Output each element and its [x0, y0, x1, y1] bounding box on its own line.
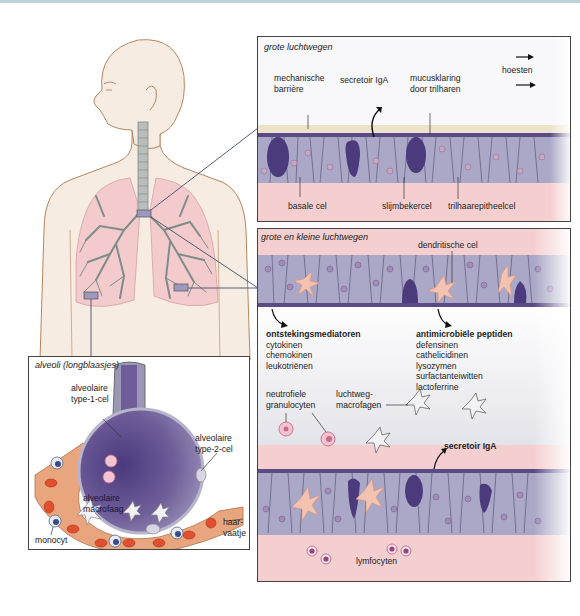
panel-title: alveoli (longblaasjes): [35, 360, 119, 370]
label-secretory-iga: secretoir IgA: [340, 75, 388, 86]
label-type1-cell: alveolaire type-1-cel: [71, 383, 109, 404]
human-torso-figure: [0, 30, 260, 360]
panel-title: grote luchtwegen: [264, 42, 333, 52]
label-monocyte: monocyt: [35, 535, 67, 546]
label-cough: hoesten: [502, 65, 533, 76]
label-lymphocytes: lymfocyten: [356, 556, 397, 567]
marker-alveoli: [84, 292, 98, 299]
top-border-line: [0, 0, 580, 3]
label-mucus-clearance: mucusklaring door trilharen: [410, 73, 461, 94]
panel-large-airways: grote luchtwegen mechanische barrière se…: [257, 36, 571, 222]
label-secretory-iga: secretoir IgA: [444, 441, 497, 452]
panel-all-airways: grote en kleine luchtwegen dendritische …: [257, 228, 571, 582]
label-dendritic-cell: dendritische cel: [418, 240, 478, 251]
marker-small-airway: [174, 284, 188, 291]
label-mechanical-barrier: mechanische barrière: [274, 73, 325, 94]
label-alveolar-macrophage: alveolaire macrofaag: [83, 493, 124, 514]
label-capillary: haar- vaatje: [223, 517, 246, 538]
panel-alveoli: alveoli (longblaasjes) alveolaire type-1…: [28, 356, 250, 550]
label-airway-macrophages: luchtweg- macrofagen: [336, 389, 381, 410]
human-torso-illustration: [0, 30, 260, 360]
label-inflammatory-mediators: ontstekingsmediatoren cytokinen chemokin…: [266, 329, 361, 371]
label-antimicrobial-peptides: antimicrobiële peptiden defensinen cathe…: [416, 329, 512, 392]
marker-large-airway: [137, 210, 151, 217]
label-neutrophils: neutrofiele granulocyten: [266, 389, 315, 410]
label-goblet-cell: slijmbekercel: [382, 201, 432, 212]
label-basal-cell: basale cel: [288, 201, 327, 212]
panel-title: grote en kleine luchtwegen: [261, 232, 368, 242]
label-type2-cell: alveolaire type-2-cel: [195, 433, 233, 454]
label-ciliated-cell: trilhaarepitheelcel: [448, 201, 515, 212]
